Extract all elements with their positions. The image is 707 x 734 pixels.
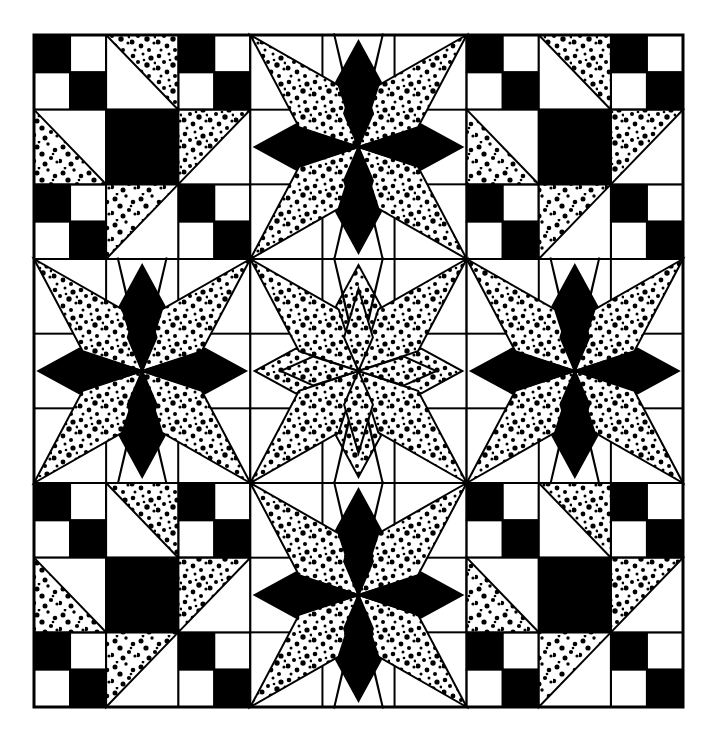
shoofly-top-left-fourpatch-bl-tr [70,184,106,221]
shoofly-top-right-fourpatch-bl-tr [503,184,539,221]
shoofly-top-left-fourpatch-br-tl [178,184,214,221]
shoofly-top-left-fourpatch-tl-bl [34,72,70,109]
shoofly-top-right-center-square [539,110,611,185]
shoofly-top-left-fourpatch-br-br [214,222,250,259]
shoofly-bottom-right-fourpatch-bl-bl [467,670,503,707]
shoofly-bottom-right-fourpatch-tr-tr [647,483,683,520]
shoofly-top-right-fourpatch-tr-bl [611,72,647,109]
shoofly-bottom-left-center-square [106,558,178,633]
shoofly-top-right-fourpatch-bl-br [503,222,539,259]
quilt-piecing [34,34,683,709]
shoofly-bottom-left-fourpatch-tr-tr [214,483,250,520]
shoofly-top-left-fourpatch-br-tr [214,184,250,221]
shoofly-bottom-right-fourpatch-bl-tl [467,632,503,669]
shoofly-bottom-right-center-square [539,558,611,633]
shoofly-top-right-fourpatch-tr-tr [647,35,683,72]
shoofly-top-right-fourpatch-bl-tl [467,184,503,221]
shoofly-top-left-fourpatch-tr-tl [178,35,214,72]
shoofly-top-right-fourpatch-tr-tl [611,35,647,72]
shoofly-bottom-left-fourpatch-tr-br [214,520,250,557]
shoofly-top-right-fourpatch-br-tr [647,184,683,221]
shoofly-bottom-right-fourpatch-tl-tl [467,483,503,520]
shoofly-top-right-fourpatch-tl-br [503,72,539,109]
shoofly-top-left-fourpatch-tr-tr [214,35,250,72]
shoofly-bottom-left-fourpatch-br-tl [178,632,214,669]
shoofly-top-left-fourpatch-tl-br [70,72,106,109]
shoofly-top-left-fourpatch-tr-bl [178,72,214,109]
shoofly-top-left-fourpatch-tl-tr [70,35,106,72]
shoofly-top-left-fourpatch-bl-bl [34,222,70,259]
quilt-canvas [0,0,707,734]
shoofly-bottom-right-fourpatch-tr-tl [611,483,647,520]
shoofly-bottom-right-fourpatch-br-tl [611,632,647,669]
shoofly-top-left-fourpatch-br-bl [178,222,214,259]
shoofly-bottom-left-fourpatch-bl-tr [70,632,106,669]
shoofly-top-right-fourpatch-br-br [647,222,683,259]
shoofly-bottom-left-fourpatch-tr-tl [178,483,214,520]
shoofly-top-right-fourpatch-tl-bl [467,72,503,109]
shoofly-bottom-left-fourpatch-tl-tl [34,483,70,520]
shoofly-bottom-left-fourpatch-bl-br [70,670,106,707]
shoofly-top-left-fourpatch-tl-tl [34,35,70,72]
shoofly-bottom-left-fourpatch-tl-bl [34,520,70,557]
shoofly-top-right-fourpatch-br-bl [611,222,647,259]
shoofly-bottom-right-fourpatch-bl-tr [503,632,539,669]
shoofly-bottom-left-fourpatch-bl-bl [34,670,70,707]
shoofly-bottom-left-fourpatch-tl-br [70,520,106,557]
shoofly-bottom-right-fourpatch-tl-bl [467,520,503,557]
shoofly-bottom-right-fourpatch-tl-br [503,520,539,557]
shoofly-bottom-right-fourpatch-bl-br [503,670,539,707]
shoofly-top-left-fourpatch-tr-br [214,72,250,109]
shoofly-bottom-left-fourpatch-br-br [214,670,250,707]
shoofly-top-right-fourpatch-bl-bl [467,222,503,259]
shoofly-top-right-fourpatch-br-tl [611,184,647,221]
shoofly-top-left-fourpatch-bl-tl [34,184,70,221]
shoofly-bottom-right-fourpatch-br-tr [647,632,683,669]
quilt-diagram [0,0,707,734]
shoofly-top-right-fourpatch-tr-br [647,72,683,109]
shoofly-top-left-center-square [106,110,178,185]
shoofly-bottom-left-fourpatch-br-tr [214,632,250,669]
shoofly-top-right-fourpatch-tl-tl [467,35,503,72]
shoofly-top-right-fourpatch-tl-tr [503,35,539,72]
shoofly-bottom-right-fourpatch-tr-br [647,520,683,557]
shoofly-bottom-right-fourpatch-br-br [647,670,683,707]
shoofly-bottom-right-fourpatch-tr-bl [611,520,647,557]
shoofly-top-left-fourpatch-bl-br [70,222,106,259]
shoofly-bottom-right-fourpatch-tl-tr [503,483,539,520]
shoofly-bottom-left-fourpatch-bl-tl [34,632,70,669]
shoofly-bottom-left-fourpatch-tr-bl [178,520,214,557]
shoofly-bottom-right-fourpatch-br-bl [611,670,647,707]
shoofly-bottom-left-fourpatch-br-bl [178,670,214,707]
shoofly-bottom-left-fourpatch-tl-tr [70,483,106,520]
